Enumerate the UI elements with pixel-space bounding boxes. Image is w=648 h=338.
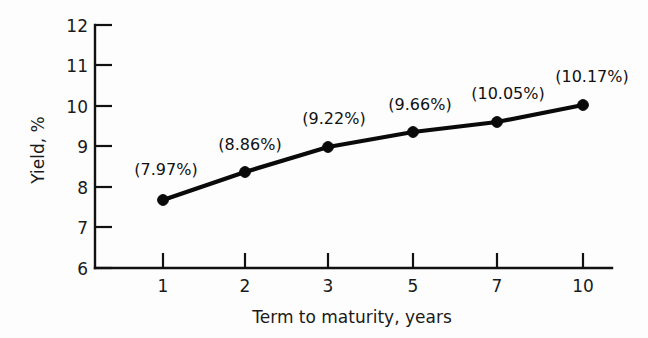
y-tick-label-12: 12 [66, 16, 88, 36]
data-label-5: (9.66%) [388, 95, 451, 114]
data-point-1 [158, 195, 169, 206]
y-axis-ticks [95, 25, 112, 268]
data-label-1: (7.97%) [134, 160, 197, 179]
data-label-2: (8.86%) [218, 135, 281, 154]
x-tick-label-2: 2 [240, 276, 251, 296]
x-tick-label-1: 1 [158, 276, 169, 296]
x-tick-label-7: 7 [492, 276, 503, 296]
y-tick-label-8: 8 [77, 178, 88, 198]
x-tick-label-10: 10 [572, 276, 594, 296]
data-label-10: (10.17%) [555, 67, 629, 86]
data-point-7 [492, 117, 503, 128]
data-point-3 [323, 142, 334, 153]
x-axis-title: Term to maturity, years [251, 307, 452, 327]
x-tick-label-5: 5 [408, 276, 419, 296]
y-tick-label-6: 6 [77, 259, 88, 279]
y-tick-label-7: 7 [77, 218, 88, 238]
y-tick-label-11: 11 [66, 56, 88, 76]
data-point-2 [240, 167, 251, 178]
chart-figure: 12 11 10 9 8 7 6 1 2 3 5 7 10 ( [0, 0, 648, 338]
y-tick-label-10: 10 [66, 97, 88, 117]
data-point-5 [408, 127, 419, 138]
yield-curve-chart: 12 11 10 9 8 7 6 1 2 3 5 7 10 ( [0, 0, 648, 338]
x-tick-label-3: 3 [323, 276, 334, 296]
x-axis-ticks [163, 253, 583, 268]
y-tick-label-9: 9 [77, 137, 88, 157]
y-axis-title: Yield, % [28, 116, 48, 184]
data-label-7: (10.05%) [471, 84, 545, 103]
data-label-3: (9.22%) [302, 109, 365, 128]
data-point-10 [578, 100, 589, 111]
